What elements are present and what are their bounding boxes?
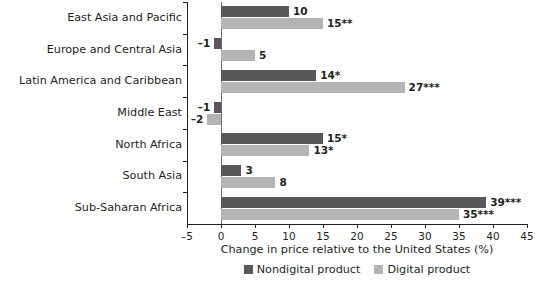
bar-chart: East Asia and PacificEurope and Central …	[0, 0, 540, 291]
category-axis-tick	[183, 65, 187, 66]
bar-value-label: 13*	[313, 145, 333, 156]
bar-value-label: 5	[259, 50, 266, 61]
bar-digital	[221, 82, 405, 93]
bar-nondigital	[221, 6, 289, 17]
x-axis-title: Change in price relative to the United S…	[187, 243, 527, 256]
legend-label: Nondigital product	[257, 263, 361, 276]
category-label: North Africa	[0, 139, 182, 151]
category-axis-tick	[183, 129, 187, 130]
bar-nondigital	[214, 102, 221, 113]
bar-value-label: 15*	[327, 133, 347, 144]
x-axis-tick-label: 25	[384, 230, 397, 242]
chart-legend: Nondigital productDigital product	[187, 263, 527, 276]
x-axis-tick	[221, 224, 222, 228]
x-axis-tick	[527, 224, 528, 228]
category-axis-tick	[183, 2, 187, 3]
x-axis-tick	[255, 224, 256, 228]
bar-nondigital	[221, 70, 316, 81]
x-axis-tick-label: 5	[252, 230, 259, 242]
category-axis-tick	[183, 192, 187, 193]
category-label: East Asia and Pacific	[0, 12, 182, 24]
x-axis-tick-label: 0	[218, 230, 225, 242]
x-axis-tick-label: 10	[282, 230, 295, 242]
bar-digital	[221, 18, 323, 29]
legend-item-nondigital[interactable]: Nondigital product	[244, 263, 361, 276]
plot-area: –50510152025303540451015**–1514*27***–1–…	[187, 2, 527, 224]
category-label: Sub-Saharan Africa	[0, 202, 182, 214]
x-axis-tick-label: 20	[350, 230, 363, 242]
x-axis-tick-label: 40	[486, 230, 499, 242]
x-axis-tick	[493, 224, 494, 228]
bar-nondigital	[221, 165, 241, 176]
bar-digital	[221, 50, 255, 61]
bar-value-label: –1	[198, 102, 211, 113]
legend-swatch-icon	[374, 265, 383, 274]
category-label: Europe and Central Asia	[0, 44, 182, 56]
bar-value-label: 27***	[409, 82, 440, 93]
x-axis-tick	[323, 224, 324, 228]
x-axis-tick	[289, 224, 290, 228]
bar-value-label: –2	[191, 114, 204, 125]
bar-digital	[221, 177, 275, 188]
x-axis-tick	[459, 224, 460, 228]
x-axis-tick	[391, 224, 392, 228]
legend-swatch-icon	[244, 265, 253, 274]
category-label: Middle East	[0, 107, 182, 119]
zero-reference-line	[221, 2, 222, 224]
x-axis-tick	[357, 224, 358, 228]
category-label: South Asia	[0, 170, 182, 182]
bar-nondigital	[221, 197, 486, 208]
x-axis-tick-label: 30	[418, 230, 431, 242]
x-axis-tick-label: 35	[452, 230, 465, 242]
bar-digital	[221, 209, 459, 220]
legend-item-digital[interactable]: Digital product	[374, 263, 470, 276]
y-axis-line	[187, 2, 188, 224]
bar-value-label: –1	[198, 38, 211, 49]
category-axis-tick	[183, 34, 187, 35]
bar-digital	[221, 145, 309, 156]
legend-label: Digital product	[387, 263, 470, 276]
bar-value-label: 39***	[490, 197, 521, 208]
x-axis-tick-label: –5	[181, 230, 193, 242]
category-label: Latin America and Caribbean	[0, 75, 182, 87]
bar-value-label: 8	[279, 177, 286, 188]
bar-nondigital	[214, 38, 221, 49]
bar-value-label: 3	[245, 165, 252, 176]
bar-digital	[207, 114, 221, 125]
x-axis-tick	[425, 224, 426, 228]
bar-nondigital	[221, 133, 323, 144]
bar-value-label: 35***	[463, 209, 494, 220]
category-axis-tick	[183, 161, 187, 162]
x-axis-tick	[187, 224, 188, 228]
bar-value-label: 14*	[320, 70, 340, 81]
bar-value-label: 10	[293, 6, 308, 17]
x-axis-tick-label: 15	[316, 230, 329, 242]
bar-value-label: 15**	[327, 18, 353, 29]
x-axis-tick-label: 45	[520, 230, 533, 242]
category-axis-tick	[183, 97, 187, 98]
